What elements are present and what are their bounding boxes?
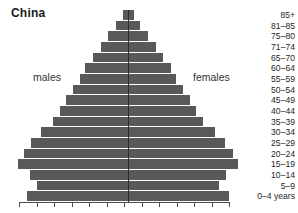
pyramid-row (0, 21, 248, 31)
pyramid-row (0, 42, 248, 52)
bar-females (128, 21, 140, 31)
axis-tick-mark (177, 202, 178, 207)
bar-females (128, 85, 183, 95)
age-group-label: 40–44 (243, 106, 295, 116)
axis-tick-mark (19, 202, 20, 207)
pyramid-row (0, 138, 248, 148)
axis-tick-mark (142, 202, 143, 207)
axis-tick-mark (72, 202, 73, 207)
age-group-label: 5–9 (243, 181, 295, 191)
age-group-label: 71–74 (243, 42, 295, 52)
bar-females (128, 170, 226, 180)
pyramid-row (0, 31, 248, 41)
bar-males (31, 138, 128, 148)
bar-males (27, 191, 128, 201)
axis-tick-mark (212, 202, 213, 207)
pyramid-row (0, 181, 248, 191)
age-group-axis: 85+81–8575–8071–7465–7060–6455–5950–5445… (243, 10, 295, 202)
center-axis-line (128, 10, 129, 202)
bar-males (24, 149, 129, 159)
bar-females (128, 181, 219, 191)
age-group-label: 81–85 (243, 21, 295, 31)
population-pyramid-chart: China males females 85+81–8575–8071–7465… (0, 0, 298, 213)
bar-females (128, 127, 215, 137)
bar-females (128, 95, 190, 105)
pyramid-row (0, 85, 248, 95)
bar-males (18, 159, 128, 169)
axis-tick-mark (54, 202, 55, 207)
bar-males (66, 95, 128, 105)
bar-males (93, 53, 128, 63)
bar-females (128, 42, 156, 52)
bar-males (41, 127, 128, 137)
value-axis (0, 202, 248, 213)
bar-males (101, 42, 129, 52)
age-group-label: 85+ (243, 10, 295, 20)
age-group-label: 55–59 (243, 74, 295, 84)
age-group-label: 10–14 (243, 170, 295, 180)
age-group-label: 50–54 (243, 85, 295, 95)
axis-tick-mark (107, 202, 108, 207)
pyramid-row (0, 53, 248, 63)
bar-females (128, 63, 171, 73)
pyramid-row (0, 191, 248, 201)
bar-males (85, 63, 128, 73)
bar-males (80, 74, 128, 84)
pyramid-row (0, 159, 248, 169)
pyramid-row (0, 10, 248, 20)
plot-area (0, 10, 248, 202)
axis-tick-mark (159, 202, 160, 207)
bar-females (128, 53, 163, 63)
age-group-label: 60–64 (243, 63, 295, 73)
bar-females (128, 159, 238, 169)
pyramid-row (0, 95, 248, 105)
pyramid-row (0, 127, 248, 137)
axis-tick-mark (89, 202, 90, 207)
bar-males (30, 170, 128, 180)
pyramid-row (0, 117, 248, 127)
age-group-label: 75–80 (243, 31, 295, 41)
axis-tick-mark (124, 202, 125, 207)
pyramid-row (0, 106, 248, 116)
bar-females (128, 149, 233, 159)
bar-females (128, 74, 176, 84)
pyramid-row (0, 149, 248, 159)
bar-males (53, 117, 128, 127)
axis-tick-mark (229, 202, 230, 207)
age-group-label: 65–70 (243, 53, 295, 63)
age-group-label: 20–24 (243, 149, 295, 159)
bar-males (37, 181, 128, 191)
bar-males (108, 31, 128, 41)
age-group-label: 35–39 (243, 117, 295, 127)
axis-tick-mark (194, 202, 195, 207)
series-label-males: males (33, 71, 61, 83)
bar-females (128, 117, 203, 127)
age-group-label: 15–19 (243, 159, 295, 169)
bar-females (128, 31, 148, 41)
axis-tick-mark (37, 202, 38, 207)
bar-females (128, 191, 229, 201)
bar-females (128, 138, 225, 148)
pyramid-row (0, 170, 248, 180)
age-group-label: 0–4 years (243, 191, 295, 201)
bar-males (73, 85, 128, 95)
bar-males (116, 21, 128, 31)
age-group-label: 30–34 (243, 127, 295, 137)
age-group-label: 25–29 (243, 138, 295, 148)
age-group-label: 45–49 (243, 95, 295, 105)
bar-males (60, 106, 128, 116)
bar-females (128, 106, 196, 116)
series-label-females: females (193, 71, 230, 83)
